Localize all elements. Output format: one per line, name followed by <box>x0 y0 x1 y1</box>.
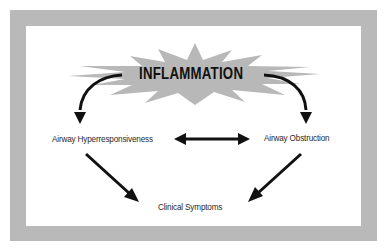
bidirectional-arrow <box>174 133 250 145</box>
node-airway-hyperresponsiveness: Airway Hyperresponsiveness <box>52 133 153 144</box>
arrow-hyperresponsiveness-to-symptoms <box>86 154 139 202</box>
node-clinical-symptoms: Clinical Symptoms <box>158 201 222 212</box>
node-airway-obstruction: Airway Obstruction <box>264 132 329 143</box>
node-inflammation: INFLAMMATION <box>139 64 243 84</box>
arrow-obstruction-to-symptoms <box>248 154 301 202</box>
